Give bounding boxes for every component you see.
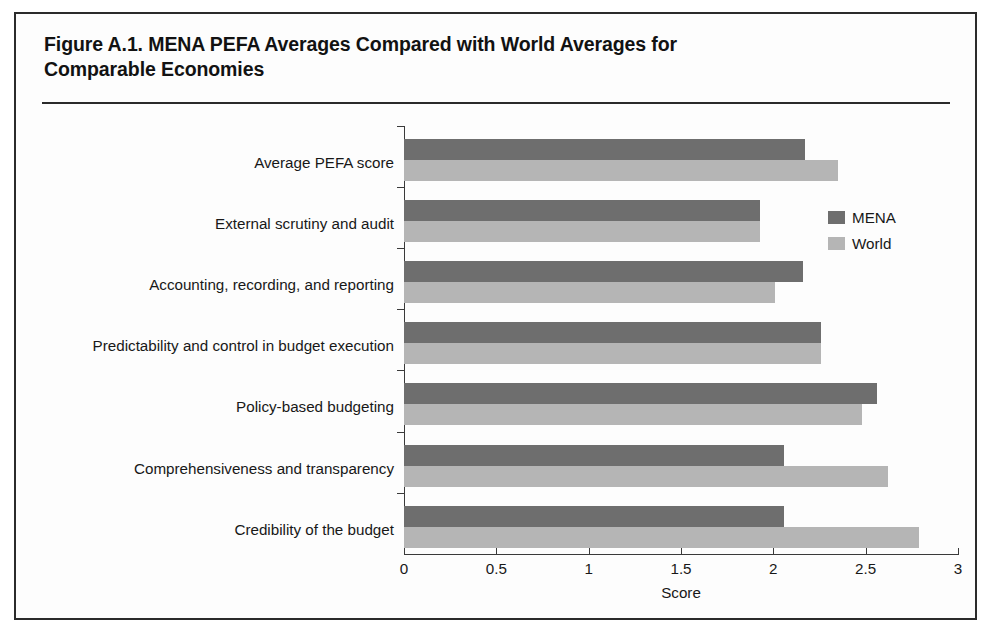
category-group: Credibility of the budget bbox=[16, 499, 966, 560]
x-axis-tick-label: 0.5 bbox=[486, 560, 507, 577]
y-axis-tick bbox=[397, 309, 404, 310]
x-axis-tick-label: 3 bbox=[954, 560, 962, 577]
bar-pair bbox=[404, 254, 964, 315]
category-group: Predictability and control in budget exe… bbox=[16, 315, 966, 376]
x-axis-tick bbox=[773, 548, 774, 555]
category-group: Average PEFA score bbox=[16, 132, 966, 193]
bar-world[interactable] bbox=[404, 282, 775, 303]
legend-item-world[interactable]: World bbox=[828, 230, 948, 256]
x-axis-tick bbox=[496, 548, 497, 555]
category-group: Accounting, recording, and reporting bbox=[16, 254, 966, 315]
y-axis-tick bbox=[397, 432, 404, 433]
bar-world[interactable] bbox=[404, 466, 888, 487]
category-label: Predictability and control in budget exe… bbox=[56, 315, 404, 376]
bar-world[interactable] bbox=[404, 160, 838, 181]
legend-item-mena[interactable]: MENA bbox=[828, 204, 948, 230]
legend-swatch-mena-icon bbox=[828, 211, 845, 224]
x-axis-label: Score bbox=[404, 584, 958, 601]
category-label: Comprehensiveness and transparency bbox=[56, 438, 404, 499]
x-axis-tick-label: 2.5 bbox=[855, 560, 876, 577]
bar-pair bbox=[404, 438, 964, 499]
bar-mena[interactable] bbox=[404, 261, 803, 282]
bar-pair bbox=[404, 132, 964, 193]
x-axis-tick bbox=[866, 548, 867, 555]
chart-plot-area: Average PEFA scoreExternal scrutiny and … bbox=[16, 14, 975, 618]
bar-mena[interactable] bbox=[404, 139, 805, 160]
bar-world[interactable] bbox=[404, 343, 821, 364]
x-axis-tick-label: 1 bbox=[584, 560, 592, 577]
legend-label-mena: MENA bbox=[852, 209, 896, 226]
legend-label-world: World bbox=[852, 235, 891, 252]
bar-world[interactable] bbox=[404, 404, 862, 425]
bar-world[interactable] bbox=[404, 527, 919, 548]
bar-pair bbox=[404, 499, 964, 560]
category-label: Accounting, recording, and reporting bbox=[56, 254, 404, 315]
category-group: External scrutiny and audit bbox=[16, 193, 966, 254]
bar-pair bbox=[404, 315, 964, 376]
category-label: Credibility of the budget bbox=[56, 499, 404, 560]
chart-legend: MENA World bbox=[828, 204, 948, 256]
x-axis-tick bbox=[404, 548, 405, 555]
category-label: Average PEFA score bbox=[56, 132, 404, 193]
y-axis-tick bbox=[397, 370, 404, 371]
y-axis-tick bbox=[397, 493, 404, 494]
x-axis-tick-label: 0 bbox=[400, 560, 408, 577]
x-axis-tick bbox=[958, 548, 959, 555]
category-group: Policy-based budgeting bbox=[16, 376, 966, 437]
bar-pair bbox=[404, 376, 964, 437]
x-axis-tick-label: 1.5 bbox=[670, 560, 691, 577]
category-label: External scrutiny and audit bbox=[56, 193, 404, 254]
figure-body: Figure A.1. MENA PEFA Averages Compared … bbox=[16, 14, 975, 618]
category-label: Policy-based budgeting bbox=[56, 376, 404, 437]
bar-mena[interactable] bbox=[404, 445, 784, 466]
x-axis-tick-label: 2 bbox=[769, 560, 777, 577]
category-group: Comprehensiveness and transparency bbox=[16, 438, 966, 499]
x-axis-tick bbox=[681, 548, 682, 555]
bar-mena[interactable] bbox=[404, 322, 821, 343]
x-axis-tick bbox=[589, 548, 590, 555]
y-axis-tick bbox=[397, 248, 404, 249]
bar-mena[interactable] bbox=[404, 200, 760, 221]
legend-swatch-world-icon bbox=[828, 237, 845, 250]
figure-frame: Figure A.1. MENA PEFA Averages Compared … bbox=[14, 12, 977, 620]
y-axis-tick bbox=[397, 126, 404, 127]
bar-world[interactable] bbox=[404, 221, 760, 242]
y-axis-tick bbox=[397, 187, 404, 188]
bar-mena[interactable] bbox=[404, 506, 784, 527]
bar-mena[interactable] bbox=[404, 383, 877, 404]
